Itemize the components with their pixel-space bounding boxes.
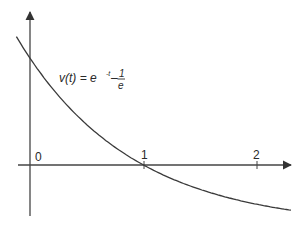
equation-label: v(t) = e — [59, 71, 97, 85]
x-tick-label-1: 1 — [141, 148, 148, 162]
equation-minus: – — [110, 71, 118, 85]
equation-fraction-denominator: e — [118, 80, 124, 91]
chart-canvas: 0 1 2 v(t) = e -t – 1 e — [0, 0, 302, 233]
curve-v-of-t — [16, 37, 291, 211]
x-tick-label-2: 2 — [253, 148, 260, 162]
x-tick-label-0: 0 — [35, 150, 42, 164]
equation-fraction-numerator: 1 — [119, 68, 125, 79]
